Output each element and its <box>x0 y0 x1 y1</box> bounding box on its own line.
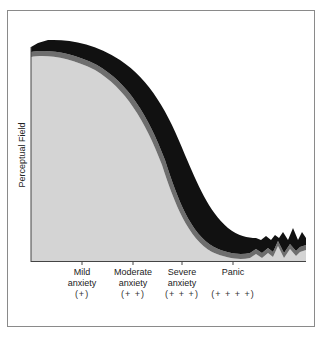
x-label-line1: Panic <box>203 267 263 278</box>
x-label-panic: Panic (+ + + +) <box>203 267 263 300</box>
x-label-severity: (+ + + +) <box>203 289 263 300</box>
x-label-line2 <box>203 278 263 289</box>
y-axis-label: Perceptual Field <box>17 105 27 205</box>
